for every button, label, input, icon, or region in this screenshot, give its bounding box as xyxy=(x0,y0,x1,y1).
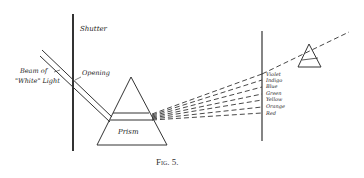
shutter-label: Shutter xyxy=(80,25,108,33)
dispersed-rays xyxy=(152,74,262,120)
small-prism-band xyxy=(302,58,318,60)
opening-label: Opening xyxy=(82,69,110,77)
prism-dispersion-diagram: Shutter Beam of "White" Light Opening Pr… xyxy=(0,0,364,178)
beam-label-line1: Beam of xyxy=(19,67,49,75)
spectrum-labels: Violet Indigo Blue Green Yellow Orange R… xyxy=(265,71,285,116)
color-label-orange: Orange xyxy=(266,103,285,110)
figure-caption: Fig. 5. xyxy=(156,157,179,167)
prism-label: Prism xyxy=(117,128,139,136)
beam-label-line2: "White" Light xyxy=(15,77,60,85)
white-light-beam xyxy=(40,50,112,122)
color-label-red: Red xyxy=(265,110,276,116)
opening-label-pointer xyxy=(75,77,81,80)
small-prism-shape xyxy=(298,44,321,67)
color-label-yellow: Yellow xyxy=(266,96,283,102)
color-label-blue: Blue xyxy=(265,83,277,89)
violet-ray-extension xyxy=(262,32,349,74)
